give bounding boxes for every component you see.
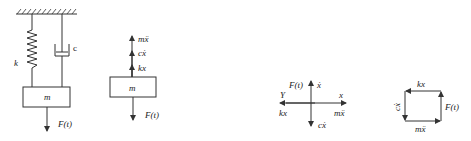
spring-force-label: kx — [138, 63, 146, 73]
top-label: kx — [417, 79, 425, 89]
y-label: Y — [280, 90, 286, 100]
right-force-label: mẍ — [334, 108, 345, 118]
left-force-label: kx — [279, 108, 287, 118]
force-label: F(t) — [57, 119, 72, 129]
left-label: cẋ — [392, 103, 402, 111]
damper-label: c — [73, 43, 77, 53]
spring — [27, 14, 37, 87]
x-dot-label: ẋ — [316, 80, 321, 90]
damping-force-label: cẋ — [138, 48, 146, 58]
vibration-diagram: k c m F(t) mẍ cẋ kx m F(t) F(t) — [0, 0, 471, 141]
ceiling-hatch — [17, 9, 76, 14]
figure-force-axes: F(t) ẋ Y x kx mẍ cẋ — [279, 80, 346, 130]
spring-label: k — [14, 58, 19, 68]
inertia-force-label: mẍ — [138, 34, 149, 44]
damper — [55, 14, 69, 87]
mass-label: m — [129, 83, 136, 93]
down-force-label: cẋ — [318, 120, 326, 130]
bottom-label: mẍ — [415, 124, 426, 134]
force-label: F(t) — [144, 110, 159, 120]
mass-label: m — [44, 92, 51, 102]
force-up-label: F(t) — [288, 80, 303, 90]
right-label: F(t) — [444, 102, 459, 112]
figure-force-polygon: kx cẋ F(t) mẍ — [392, 79, 459, 134]
figure-spring-mass-damper: k c m F(t) — [14, 9, 77, 131]
x-label: x — [338, 90, 343, 100]
figure-free-body: mẍ cẋ kx m F(t) — [110, 34, 159, 120]
